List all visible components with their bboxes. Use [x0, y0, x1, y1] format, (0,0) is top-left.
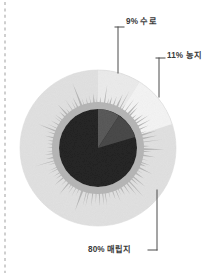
callout-leader-water [115, 27, 124, 73]
callout-label-farmland: 11% 농지 [167, 52, 202, 60]
callout-label-landfill: 80% 매립지 [88, 246, 131, 254]
callout-label-water: 9% 수로 [126, 18, 157, 26]
inner-core-group [59, 109, 137, 187]
chart-canvas: 9% 수로 11% 농지 80% 매립지 [0, 0, 221, 275]
concentric-pie-chart [0, 0, 221, 275]
callout-leader-farmland [156, 58, 165, 97]
